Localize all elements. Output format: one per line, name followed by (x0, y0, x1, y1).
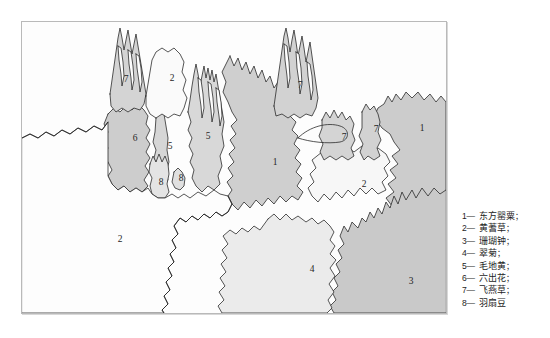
legend-separator: ； (506, 235, 514, 246)
region-label-4: 4 (310, 264, 315, 274)
region-label-2b: 2 (362, 179, 367, 189)
region-label-1b: 1 (420, 123, 425, 133)
planting-plan-figure: 7 2 6 5 5 8 8 1 7 7 7 1 2 2 4 3 1 — (0, 0, 550, 338)
legend-separator: ； (515, 210, 523, 221)
legend-separator: ； (506, 260, 514, 271)
legend-dash-icon: — (467, 298, 476, 308)
region-label-5b: 5 (206, 131, 211, 141)
legend-plant-name: 珊瑚钟 (479, 234, 506, 247)
region-label-6: 6 (133, 133, 138, 143)
legend-dash-icon: — (467, 211, 476, 221)
region-7-small-shape (319, 110, 355, 160)
region-label-8: 8 (159, 177, 164, 187)
legend-item-5: 5 — 毛地黄 ； (462, 259, 548, 271)
legend-item-7: 7 — 飞燕草 ； (462, 283, 548, 295)
region-label-7b: 7 (298, 80, 303, 90)
region-label-2: 2 (170, 73, 175, 83)
legend-plant-name: 羽扇豆 (479, 296, 506, 309)
legend-item-6: 6 — 六出花 ； (462, 271, 548, 283)
region-label-3: 3 (409, 276, 414, 286)
legend-plant-name: 六出花 (479, 271, 506, 284)
region-label-5: 5 (168, 141, 173, 151)
region-label-8b: 8 (179, 173, 184, 183)
legend-dash-icon: — (467, 273, 476, 283)
region-label-7d: 7 (374, 124, 379, 134)
legend-dash-icon: — (467, 248, 476, 258)
legend-separator: ； (497, 247, 505, 258)
region-label-7: 7 (124, 74, 129, 84)
region-6-shape (104, 104, 150, 192)
legend-item-3: 3 — 珊瑚钟 ； (462, 234, 548, 246)
region-label-2c: 2 (118, 234, 123, 244)
region-8-left-shape (149, 154, 169, 198)
legend-dash-icon: — (467, 285, 476, 295)
legend-plant-name: 东方罂粟 (479, 209, 515, 222)
legend-dash-icon: — (467, 261, 476, 271)
legend-plant-name: 飞燕草 (479, 283, 506, 296)
map-drawing: 7 2 6 5 5 8 8 1 7 7 7 1 2 2 4 3 (22, 22, 446, 313)
legend-plant-name: 黄蓍草 (479, 221, 506, 234)
legend-plant-name: 翠菊 (479, 246, 497, 259)
legend-separator: ； (506, 272, 514, 283)
legend-dash-icon: — (467, 223, 476, 233)
region-label-1: 1 (273, 157, 278, 167)
legend-dash-icon: — (467, 236, 476, 246)
region-label-7c: 7 (342, 132, 347, 142)
map-frame: 7 2 6 5 5 8 8 1 7 7 7 1 2 2 4 3 (21, 21, 447, 314)
legend-separator: ； (506, 222, 514, 233)
legend-separator: ； (506, 284, 514, 295)
legend-item-4: 4 — 翠菊 ； (462, 246, 548, 258)
legend: 1 — 东方罂粟 ； 2 — 黄蓍草 ； 3 — 珊瑚钟 ； 4 — 翠菊 ； … (462, 209, 548, 308)
legend-item-2: 2 — 黄蓍草 ； (462, 221, 548, 233)
legend-item-1: 1 — 东方罂粟 ； (462, 209, 548, 221)
legend-plant-name: 毛地黄 (479, 259, 506, 272)
legend-item-8: 8 — 羽扇豆 (462, 296, 548, 308)
